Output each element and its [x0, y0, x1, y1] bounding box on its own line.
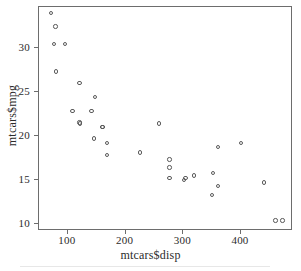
scan-artifact-line — [20, 266, 270, 267]
x-axis-tick-label: 400 — [220, 234, 260, 247]
y-axis-tick — [34, 179, 38, 180]
data-points-layer — [39, 7, 291, 229]
y-axis-tick-label: 10 — [0, 217, 30, 229]
x-axis-label: mtcars$disp — [0, 248, 301, 263]
x-axis-tick-label: 300 — [162, 234, 202, 247]
data-point — [239, 141, 243, 145]
data-point — [280, 218, 284, 222]
y-axis-tick-label: 30 — [0, 41, 30, 53]
y-axis-tick-label: 15 — [0, 173, 30, 185]
data-point — [92, 136, 96, 140]
data-point — [216, 145, 220, 149]
data-point — [167, 176, 171, 180]
data-point — [182, 178, 186, 182]
data-point — [49, 11, 53, 15]
y-axis-tick — [34, 91, 38, 92]
data-point — [78, 121, 82, 125]
y-axis-label: mtcars$mpg — [5, 66, 20, 166]
data-point — [105, 153, 109, 157]
data-point — [216, 184, 220, 188]
data-point — [157, 121, 161, 125]
data-point — [192, 173, 196, 177]
data-point — [167, 157, 171, 161]
data-point — [53, 24, 57, 28]
data-point — [93, 95, 97, 99]
y-axis-tick — [34, 135, 38, 136]
data-point — [273, 218, 277, 222]
data-point — [211, 171, 215, 175]
y-axis-tick — [34, 223, 38, 224]
data-point — [52, 42, 56, 46]
data-point — [63, 42, 67, 46]
data-point — [89, 109, 93, 113]
data-point — [210, 193, 214, 197]
data-point — [77, 81, 81, 85]
x-axis-tick-label: 200 — [105, 234, 145, 247]
data-point — [262, 180, 266, 184]
data-point — [70, 109, 74, 113]
data-point — [105, 141, 109, 145]
data-point — [100, 125, 104, 129]
plot-frame — [38, 6, 292, 230]
data-point — [54, 69, 58, 73]
x-axis-tick-label: 100 — [47, 234, 87, 247]
y-axis-tick — [34, 47, 38, 48]
data-point — [167, 165, 171, 169]
data-point — [138, 150, 142, 154]
scatter-plot-figure: 1002003004001015202530 mtcars$disp mtcar… — [0, 0, 301, 271]
